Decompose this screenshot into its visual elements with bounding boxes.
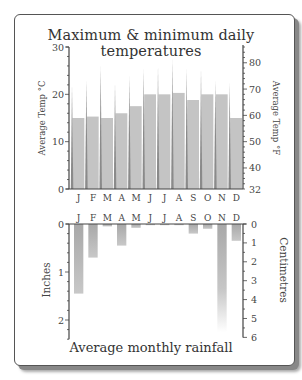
rain-bar xyxy=(217,224,226,332)
rainfall-bars: JFMAMJJASOND xyxy=(74,213,241,332)
month-label: M xyxy=(103,193,112,203)
temp-bar xyxy=(216,94,228,189)
month-label: F xyxy=(90,193,96,203)
temp-c-axis-title: Average Temp °C xyxy=(37,81,47,157)
month-label: S xyxy=(190,213,196,223)
temp-bar xyxy=(187,100,199,189)
month-label: A xyxy=(117,213,125,223)
temp-bar xyxy=(144,94,156,189)
temp-f-tick: 40 xyxy=(249,162,261,173)
rain-cm-tick: 6 xyxy=(251,332,257,343)
rain-bar xyxy=(203,224,212,229)
month-label: O xyxy=(204,193,211,203)
rain-in-tick: 2 xyxy=(58,315,64,326)
temp-bar xyxy=(230,118,242,189)
rain-cm-tick: 3 xyxy=(251,275,257,286)
rain-cm-tick: 4 xyxy=(251,294,257,305)
month-label: J xyxy=(76,193,81,203)
rain-bar xyxy=(74,224,83,294)
rain-cm-tick: 5 xyxy=(251,313,257,324)
temp-c-tick: 20 xyxy=(52,89,64,100)
month-label: N xyxy=(218,193,226,203)
rain-bar xyxy=(117,224,126,246)
rain-bar xyxy=(232,224,241,241)
temp-f-axis-title: Average Temp °F xyxy=(271,80,281,155)
month-label: M xyxy=(103,213,112,223)
month-label: A xyxy=(175,193,183,203)
rain-cm-tick: 0 xyxy=(251,219,257,230)
temperature-bars: JFMAMJJASOND xyxy=(71,59,242,203)
temp-f-tick: 32 xyxy=(249,184,261,195)
month-label: N xyxy=(218,213,226,223)
temp-f-tick: 60 xyxy=(249,110,261,121)
rain-in-axis-title: Inches xyxy=(40,262,52,297)
rainfall-axes: 0120123456 xyxy=(58,219,257,343)
temp-c-tick: 10 xyxy=(52,136,64,147)
temp-c-tick: 30 xyxy=(52,42,64,53)
temp-c-tick: 0 xyxy=(58,184,64,195)
temp-bar xyxy=(173,93,185,189)
rain-cm-tick: 1 xyxy=(251,237,257,248)
month-label: J xyxy=(162,213,167,223)
temp-bar xyxy=(87,117,99,189)
month-label: M xyxy=(131,193,140,203)
climate-chart: JFMAMJJASOND 0102030324050607080 JFMAMJJ… xyxy=(0,0,302,380)
month-label: S xyxy=(190,193,196,203)
month-label: J xyxy=(148,213,153,223)
month-label: J xyxy=(148,193,153,203)
temp-bar xyxy=(73,118,85,189)
month-label: D xyxy=(233,193,240,203)
rain-in-tick: 0 xyxy=(58,219,64,230)
rain-in-tick: 1 xyxy=(58,267,64,278)
temp-bar xyxy=(159,94,171,189)
temp-bar xyxy=(116,113,128,189)
rain-cm-axis-title: Centimetres xyxy=(278,237,290,303)
month-label: F xyxy=(90,213,96,223)
temp-bar xyxy=(101,118,113,189)
month-label: J xyxy=(76,213,81,223)
temp-bar xyxy=(202,94,214,189)
temp-bar xyxy=(130,106,142,189)
temp-f-tick: 80 xyxy=(249,57,261,68)
rain-cm-tick: 2 xyxy=(251,256,257,267)
month-label: D xyxy=(233,213,240,223)
month-label: A xyxy=(175,213,183,223)
temp-f-tick: 70 xyxy=(249,84,261,95)
month-label: A xyxy=(117,193,125,203)
rain-bar xyxy=(88,224,97,258)
temp-f-tick: 50 xyxy=(249,136,261,147)
month-label: J xyxy=(162,193,167,203)
month-label: O xyxy=(204,213,211,223)
month-label: M xyxy=(131,213,140,223)
rain-bar xyxy=(189,224,198,234)
